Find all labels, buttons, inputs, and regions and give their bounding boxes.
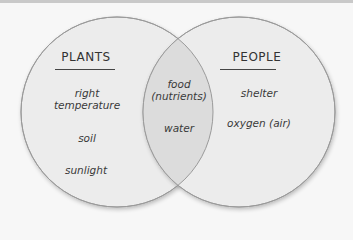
item-line: food [151, 78, 207, 90]
item-line: right [54, 87, 120, 99]
people-title-underline [220, 69, 276, 70]
plants-item-right-temperature: right temperature [54, 87, 120, 111]
people-title: PEOPLE [233, 50, 282, 64]
plants-item-sunlight: sunlight [65, 164, 107, 176]
people-item-oxygen: oxygen (air) [227, 117, 291, 129]
item-line: temperature [54, 99, 120, 111]
item-line: (nutrients) [151, 90, 207, 102]
shared-item-food: food (nutrients) [151, 78, 207, 102]
shared-item-water: water [164, 122, 194, 134]
plants-item-soil: soil [78, 132, 96, 144]
plants-title-underline [55, 69, 115, 70]
people-item-shelter: shelter [241, 87, 277, 99]
plants-title: PLANTS [61, 50, 110, 64]
